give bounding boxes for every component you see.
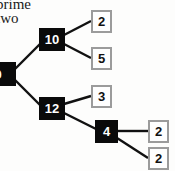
tree-edges-layer xyxy=(0,0,175,171)
tree-node-label: 12 xyxy=(45,102,59,115)
tree-node-n10: 10 xyxy=(39,28,65,51)
tree-edge-n4-to-p2c xyxy=(117,138,148,158)
tree-node-root: 120 xyxy=(0,62,16,86)
tree-node-label: 3 xyxy=(98,90,105,103)
tree-node-label: 4 xyxy=(103,125,110,138)
tree-edge-n12-to-n4 xyxy=(64,113,96,129)
tree-node-p2a: 2 xyxy=(91,10,112,33)
tree-node-p5: 5 xyxy=(91,47,112,70)
tree-node-p3: 3 xyxy=(91,85,112,108)
tree-node-label: 2 xyxy=(155,152,162,165)
factor-tree-diagram: prime two 1201012425322 xyxy=(0,0,175,171)
tree-node-label: 120 xyxy=(0,68,2,81)
tree-node-label: 5 xyxy=(98,52,105,65)
tree-node-p2c: 2 xyxy=(148,147,169,170)
tree-node-label: 2 xyxy=(155,125,162,138)
caption-line-two: two xyxy=(0,11,19,26)
tree-node-label: 10 xyxy=(45,33,59,46)
tree-edge-n10-to-p5 xyxy=(64,44,91,58)
tree-node-label: 2 xyxy=(98,15,105,28)
tree-edge-n10-to-p2a xyxy=(64,21,91,35)
tree-node-n4: 4 xyxy=(95,120,118,143)
tree-edge-root-to-n10 xyxy=(14,44,40,70)
tree-edge-n12-to-p3 xyxy=(64,96,91,104)
tree-node-n12: 12 xyxy=(39,97,65,120)
tree-node-p2b: 2 xyxy=(148,120,169,143)
tree-edge-root-to-n12 xyxy=(14,79,40,105)
